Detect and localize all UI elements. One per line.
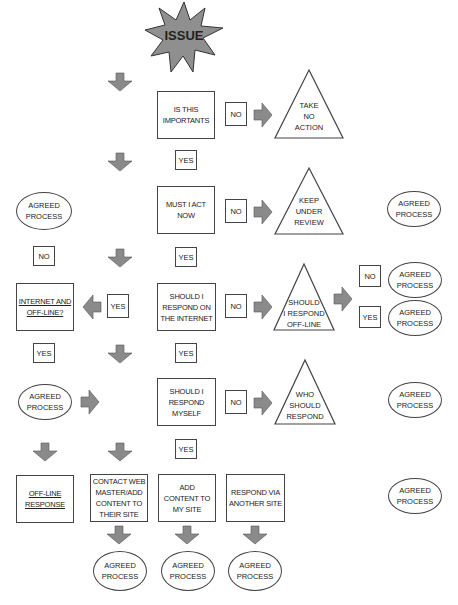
down-arrow-icon <box>107 72 133 92</box>
right-arrow-icon <box>253 102 273 128</box>
yes-label: YES <box>359 306 381 328</box>
down-arrow-icon <box>107 152 133 172</box>
down-arrow-icon <box>242 525 268 545</box>
no-label: NO <box>33 246 55 266</box>
agreed-process-oval: AGREED PROCESS <box>93 551 147 591</box>
right-arrow-icon <box>253 390 273 416</box>
agreed-process-oval: AGREED PROCESS <box>388 300 442 336</box>
offline-response-box: OFF-LINE RESPONSE <box>16 475 74 523</box>
issue-label: ISSUE <box>143 28 225 43</box>
decision-respond-internet: SHOULD I RESPOND ON THE INTERNET <box>157 283 216 331</box>
right-arrow-icon <box>253 199 273 225</box>
right-arrow-icon <box>253 294 273 320</box>
yes-label: YES <box>33 343 55 363</box>
internet-and-offline-question: INTERNET AND OFF-LINE? <box>16 283 74 331</box>
yes-label: YES <box>175 439 197 459</box>
down-arrow-icon <box>174 525 200 545</box>
yes-label: YES <box>175 247 197 267</box>
left-arrow-icon <box>82 294 102 320</box>
no-label: NO <box>225 294 247 318</box>
outcome-who-should-respond: WHO SHOULD RESPOND <box>273 389 337 422</box>
no-label: NO <box>225 199 247 223</box>
agreed-process-oval: AGREED PROCESS <box>161 551 215 591</box>
down-arrow-icon <box>107 344 133 364</box>
yes-label: YES <box>175 343 197 363</box>
outcome-take-no-action: TAKE NO ACTION <box>273 100 345 133</box>
agreed-process-oval: AGREED PROCESS <box>16 192 72 230</box>
right-arrow-icon <box>333 286 353 312</box>
agreed-process-oval: AGREED PROCESS <box>228 551 282 591</box>
yes-label: YES <box>107 294 129 318</box>
decision-is-important: IS THIS IMPORTANTS <box>157 91 215 139</box>
action-respond-another-site: RESPOND VIA ANOTHER SITE <box>226 474 285 522</box>
down-arrow-icon <box>106 525 132 545</box>
action-add-content-my-site: ADD CONTENT TO MY SITE <box>158 474 216 522</box>
no-label: NO <box>225 390 247 414</box>
yes-label: YES <box>175 150 197 170</box>
down-arrow-icon <box>32 442 58 462</box>
agreed-process-oval: AGREED PROCESS <box>388 478 442 514</box>
decision-act-now: MUST I ACT NOW <box>157 186 215 234</box>
action-contact-webmaster: CONTACT WEB MASTER/ADD CONTENT TO THEIR … <box>90 474 148 522</box>
outcome-respond-offline: SHOULD I RESPOND OFF-LINE <box>272 297 336 330</box>
agreed-process-oval: AGREED PROCESS <box>18 384 72 420</box>
down-arrow-icon <box>107 442 133 462</box>
outcome-keep-under-review: KEEP UNDER REVIEW <box>273 195 345 228</box>
agreed-process-oval: AGREED PROCESS <box>388 262 442 298</box>
no-label: NO <box>225 102 247 126</box>
agreed-process-oval: AGREED PROCESS <box>388 382 442 418</box>
decision-respond-myself: SHOULD I RESPOND MYSELF <box>157 378 216 426</box>
down-arrow-icon <box>107 248 133 268</box>
right-arrow-icon <box>80 389 100 415</box>
no-label: NO <box>359 265 381 287</box>
agreed-process-oval: AGREED PROCESS <box>387 191 441 227</box>
